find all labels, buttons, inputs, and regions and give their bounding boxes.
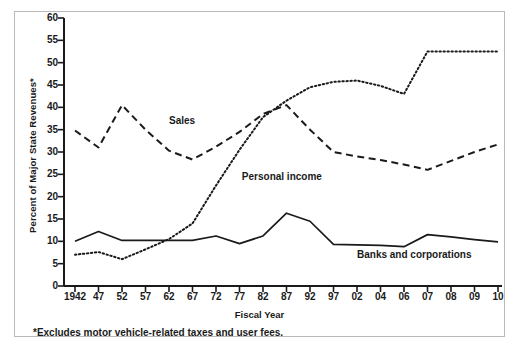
y-tick-label: 15 [36, 214, 58, 224]
x-tick-label: 67 [187, 291, 198, 303]
series-label-banks-and-corporations: Banks and corporations [357, 249, 471, 260]
y-axis-tick-labels: 051015202530354045505560 [32, 18, 58, 286]
series-line-sales [75, 105, 498, 170]
y-tick-label: 0 [36, 281, 58, 291]
x-tick-label: 87 [281, 291, 292, 303]
x-tick-label: 82 [257, 291, 268, 303]
y-tick-label: 55 [36, 35, 58, 45]
x-tick-label: 1942 [64, 291, 86, 303]
x-tick-label: 02 [351, 291, 362, 303]
x-tick-label: 57 [140, 291, 151, 303]
series-label-personal-income: Personal income [242, 171, 322, 182]
x-tick-label: 09 [469, 291, 480, 303]
axes [64, 18, 502, 286]
series-line-personal-income [75, 52, 498, 260]
x-tick-label: 92 [304, 291, 315, 303]
x-tick-label: 77 [234, 291, 245, 303]
x-tick-label: 10 [492, 291, 503, 303]
plot-area [64, 18, 502, 286]
x-tick-label: 97 [328, 291, 339, 303]
series-line-banks-and-corporations [75, 213, 498, 247]
y-tick-label: 20 [36, 192, 58, 202]
y-tick-label: 50 [36, 58, 58, 68]
y-tick-label: 35 [36, 125, 58, 135]
x-tick-label: 06 [398, 291, 409, 303]
chart-plot-svg [64, 18, 502, 286]
x-tick-label: 07 [422, 291, 433, 303]
y-tick-label: 45 [36, 80, 58, 90]
x-tick-label: 72 [210, 291, 221, 303]
y-tick-label: 5 [36, 259, 58, 269]
y-tick-label: 10 [36, 236, 58, 246]
footnote: *Excludes motor vehicle-related taxes an… [33, 327, 283, 338]
x-tick-label: 04 [375, 291, 386, 303]
x-tick-label: 47 [93, 291, 104, 303]
y-tick-label: 25 [36, 169, 58, 179]
y-tick-label: 30 [36, 147, 58, 157]
series-label-sales: Sales [169, 115, 195, 126]
chart-figure: Percent of Major State Revenues* 0510152… [0, 0, 519, 359]
x-tick-label: 08 [445, 291, 456, 303]
x-axis-tick-labels: 1942475257626772778287929702040607080910 [64, 291, 502, 305]
y-tick-label: 60 [36, 13, 58, 23]
x-tick-label: 62 [163, 291, 174, 303]
x-axis-title: Fiscal Year [0, 309, 519, 320]
x-tick-label: 52 [116, 291, 127, 303]
y-tick-label: 40 [36, 102, 58, 112]
